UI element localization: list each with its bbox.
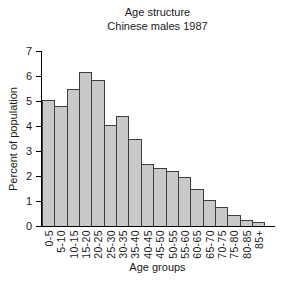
bar-85+ xyxy=(252,222,265,226)
y-tick-0 xyxy=(36,226,42,227)
y-tick-label-7: 7 xyxy=(10,45,32,57)
y-tick-label-6: 6 xyxy=(10,70,32,82)
bar-35-40 xyxy=(128,139,142,226)
y-tick-3 xyxy=(36,151,42,152)
y-tick-label-5: 5 xyxy=(10,95,32,107)
x-axis-title: Age groups xyxy=(41,261,274,273)
bar-75-80 xyxy=(227,215,241,226)
bar-60-65 xyxy=(190,189,204,226)
y-tick-4 xyxy=(36,126,42,127)
y-tick-label-0: 0 xyxy=(10,220,32,232)
y-tick-label-1: 1 xyxy=(10,195,32,207)
chart-subtitle: Chinese males 1987 xyxy=(41,19,274,33)
y-tick-5 xyxy=(36,101,42,102)
bar-45-50 xyxy=(153,168,167,226)
y-tick-label-3: 3 xyxy=(10,145,32,157)
chart-title: Age structure xyxy=(41,5,274,19)
y-tick-1 xyxy=(36,201,42,202)
x-tick-label-text: 85+ xyxy=(253,230,265,249)
chart-title-block: Age structure Chinese males 1987 xyxy=(41,5,274,33)
y-tick-7 xyxy=(36,51,42,52)
plot-area: 0-55-1010-1515-2020-2525-3030-3535-4040-… xyxy=(41,51,275,227)
y-tick-label-4: 4 xyxy=(10,120,32,132)
age-structure-figure: Age structure Chinese males 1987 Percent… xyxy=(0,0,294,281)
y-tick-2 xyxy=(36,176,42,177)
bar-5-10 xyxy=(54,106,68,226)
bar-20-25 xyxy=(91,80,105,226)
y-tick-6 xyxy=(36,76,42,77)
y-tick-label-2: 2 xyxy=(10,170,32,182)
